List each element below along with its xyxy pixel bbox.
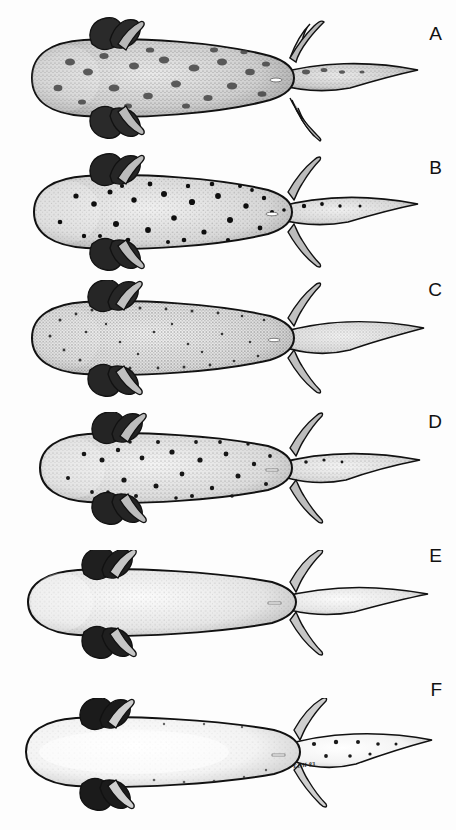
panel-label-f: F — [430, 680, 442, 699]
panel-d: D — [0, 404, 456, 532]
running-head: SYSTEMATICS AND EVOLUTION OF THE SMALL S… — [0, 0, 456, 3]
vent-mark — [270, 78, 282, 82]
panel-c: C — [0, 276, 456, 404]
vent-mark — [268, 602, 281, 604]
panel-e: E — [0, 536, 456, 668]
salamander-illustration-a — [18, 14, 438, 144]
salamander-illustration-f — [14, 698, 442, 822]
vent-mark — [272, 754, 285, 756]
panel-f: F — [0, 676, 456, 826]
figure-plate: SYSTEMATICS AND EVOLUTION OF THE SMALL S… — [0, 0, 456, 830]
salamander-illustration-e — [16, 550, 440, 666]
running-head-text: SYSTEMATICS AND EVOLUTION OF THE SMALL S… — [66, 1, 389, 3]
salamander-illustration-d — [28, 412, 432, 530]
salamander-illustration-b — [22, 152, 434, 274]
salamander-illustration-c — [20, 280, 436, 402]
vent-mark — [268, 338, 280, 341]
vent-mark — [266, 212, 278, 216]
panel-a: A — [0, 14, 456, 146]
vent-mark — [266, 469, 278, 471]
panel-b: B — [0, 152, 456, 277]
